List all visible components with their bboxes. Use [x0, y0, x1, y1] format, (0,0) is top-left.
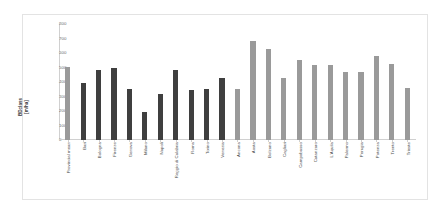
- bar-slot: [189, 23, 194, 140]
- bar[interactable]: [358, 72, 363, 140]
- x-axis-label: Trieste: [406, 142, 411, 155]
- bar-slot: [328, 23, 333, 140]
- x-axis-label: Palermo: [344, 142, 349, 158]
- x-axis-labels: Provincial meanBariBolognaFirenzeGenovaM…: [60, 142, 415, 198]
- bar-slot: [96, 23, 101, 140]
- bar-slot: [358, 23, 363, 140]
- bar-slot: [343, 23, 348, 140]
- bar-slot: [81, 23, 86, 140]
- x-axis-label: Bolzano: [267, 142, 272, 158]
- bar[interactable]: [235, 89, 240, 140]
- bar-slot: [374, 23, 379, 140]
- bar-slot: [389, 23, 394, 140]
- x-axis-label: Roma: [190, 142, 195, 154]
- bar[interactable]: [189, 90, 194, 140]
- bar-slot: [111, 23, 116, 140]
- bar[interactable]: [405, 88, 410, 140]
- x-axis-label: Trento: [390, 142, 395, 155]
- bar[interactable]: [374, 56, 379, 140]
- x-axis-label: Aosta: [251, 142, 256, 153]
- bar[interactable]: [173, 70, 178, 140]
- x-axis-label: Venezia: [220, 142, 225, 158]
- bar-slot: [235, 23, 240, 140]
- bar[interactable]: [219, 78, 224, 140]
- bar[interactable]: [281, 78, 286, 140]
- bar-slot: [142, 23, 147, 140]
- bar-slot: [65, 23, 70, 140]
- bar[interactable]: [312, 65, 317, 140]
- x-axis-label: Bologna: [97, 142, 102, 158]
- x-axis-label: Milano: [143, 142, 148, 155]
- bar-chart: BDclass [m/ha] 0100200300400500600700800…: [22, 14, 428, 200]
- bar-slot: [250, 23, 255, 140]
- bar-slot: [158, 23, 163, 140]
- bar[interactable]: [81, 83, 86, 140]
- bar[interactable]: [158, 94, 163, 140]
- bar[interactable]: [266, 49, 271, 140]
- x-axis-label: Bari: [82, 142, 87, 150]
- bar-slot: [127, 23, 132, 140]
- x-axis-label: Perugia: [359, 142, 364, 157]
- bar[interactable]: [96, 70, 101, 140]
- bar[interactable]: [142, 112, 147, 140]
- bar-slot: [297, 23, 302, 140]
- bar-slot: [204, 23, 209, 140]
- x-axis-label: Napoli: [159, 142, 164, 154]
- bar[interactable]: [297, 60, 302, 140]
- x-axis-label: Reggio di Calabria: [174, 142, 179, 178]
- x-axis-label: Genova: [128, 142, 133, 157]
- bar[interactable]: [328, 65, 333, 140]
- bar[interactable]: [111, 68, 116, 140]
- bar-slot: [405, 23, 410, 140]
- x-axis-label: Ancona: [236, 142, 241, 157]
- x-axis-label: Potenza: [375, 142, 380, 158]
- x-axis-label: Campobasso: [298, 142, 303, 168]
- bar[interactable]: [127, 89, 132, 140]
- bar-slot: [173, 23, 178, 140]
- bar[interactable]: [389, 64, 394, 140]
- bar[interactable]: [204, 89, 209, 140]
- x-axis-label: Cagliari: [282, 142, 287, 157]
- bar-slot: [219, 23, 224, 140]
- x-axis-label: Provincial mean: [66, 142, 71, 173]
- bar[interactable]: [250, 41, 255, 140]
- y-axis-title-line-2: [m/ha]: [24, 87, 30, 127]
- y-axis-title: BDclass [m/ha]: [18, 87, 29, 127]
- bar-slot: [281, 23, 286, 140]
- bar-slot: [312, 23, 317, 140]
- bar-series: [60, 23, 415, 140]
- x-axis-label: Firenze: [112, 142, 117, 157]
- bar[interactable]: [65, 67, 70, 140]
- bar[interactable]: [343, 72, 348, 140]
- x-axis-label: L'Aquila: [329, 142, 334, 158]
- x-axis-label: Torino: [205, 142, 210, 154]
- bar-slot: [266, 23, 271, 140]
- x-axis-label: Catanzaro: [313, 142, 318, 162]
